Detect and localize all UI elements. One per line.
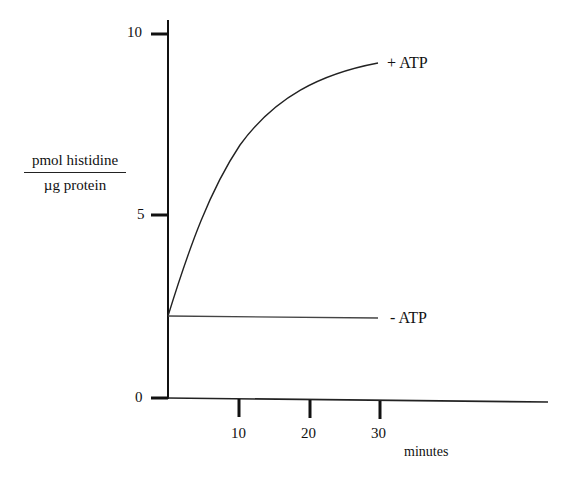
y-tick-label-10: 10 bbox=[127, 25, 142, 40]
chart-canvas bbox=[0, 0, 572, 481]
y-axis-label-numerator: pmol histidine bbox=[24, 152, 126, 173]
x-tick-label-10: 10 bbox=[231, 426, 246, 441]
x-tick-label-30: 30 bbox=[371, 426, 386, 441]
x-tick-label-20: 20 bbox=[301, 426, 316, 441]
y-tick-label-5: 5 bbox=[137, 207, 145, 222]
y-tick-label-0: 0 bbox=[135, 390, 143, 405]
x-axis-label: minutes bbox=[404, 445, 448, 459]
y-axis-label-denominator: µg protein bbox=[24, 173, 126, 194]
x-axis bbox=[167, 398, 548, 402]
series-plus-atp-line bbox=[168, 63, 378, 316]
series-label-plus-atp: + ATP bbox=[387, 55, 428, 71]
series-minus-atp-line bbox=[168, 316, 378, 318]
series-label-minus-atp: - ATP bbox=[390, 310, 427, 326]
y-axis-label: pmol histidine µg protein bbox=[24, 152, 126, 194]
